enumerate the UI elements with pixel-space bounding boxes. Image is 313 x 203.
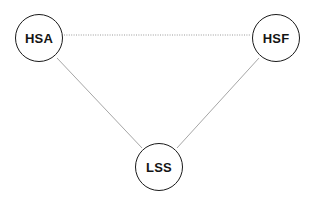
diagram-canvas: HSA HSF LSS: [0, 0, 313, 203]
edge-hsf-lss: [177, 58, 259, 148]
node-hsa-label: HSA: [25, 32, 53, 45]
node-lss-label: LSS: [146, 161, 172, 174]
node-lss[interactable]: LSS: [135, 143, 183, 191]
node-hsa[interactable]: HSA: [15, 14, 63, 62]
edge-hsa-lss: [57, 58, 142, 148]
node-hsf[interactable]: HSF: [252, 14, 300, 62]
node-hsf-label: HSF: [263, 32, 290, 45]
